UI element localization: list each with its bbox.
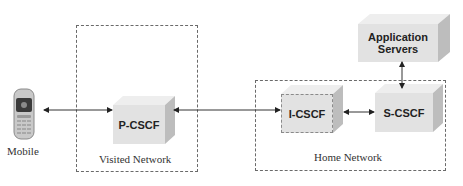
connector-lines xyxy=(0,0,463,186)
